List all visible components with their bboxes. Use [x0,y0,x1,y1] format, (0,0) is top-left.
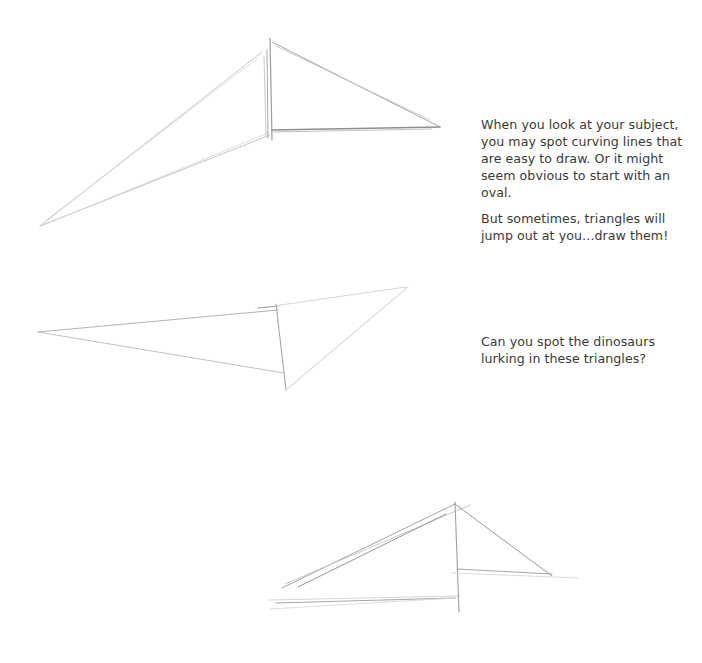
triangles-paragraph: But sometimes, triangles will jump out a… [481,210,696,244]
triangle-sketch-3 [268,502,578,612]
pencil-sketches [0,0,702,663]
triangles-text: But sometimes, triangles will jump out a… [481,210,696,244]
triangle-sketch-2 [38,287,408,390]
question-paragraph: Can you spot the dinosaurs lurking in th… [481,333,696,367]
question-text: Can you spot the dinosaurs lurking in th… [481,333,696,367]
triangle-sketch-1 [40,38,440,226]
intro-text: When you look at your subject, you may s… [481,116,696,201]
intro-paragraph: When you look at your subject, you may s… [481,116,696,201]
